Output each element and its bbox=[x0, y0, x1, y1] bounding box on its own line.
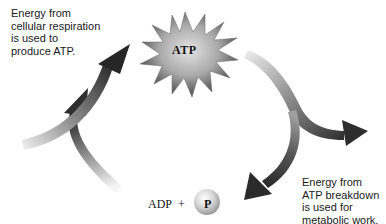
plus-sign: + bbox=[178, 197, 185, 212]
right-upper-arrow bbox=[244, 50, 368, 146]
label-energy-from-atp-breakdown: Energy from ATP breakdown is used for me… bbox=[302, 176, 379, 224]
atp-cycle-diagram: Energy from cellular respiration is used… bbox=[0, 0, 386, 224]
adp-label: ADP bbox=[148, 197, 172, 212]
phosphate-label: P bbox=[204, 197, 211, 212]
right-lower-arrow bbox=[244, 110, 300, 200]
label-energy-from-respiration: Energy from cellular respiration is used… bbox=[11, 7, 100, 57]
atp-label: ATP bbox=[172, 43, 197, 58]
